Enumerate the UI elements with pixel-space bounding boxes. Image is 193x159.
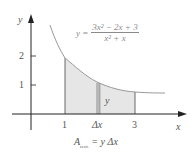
function-equation: y = 3x² − 2x + 3 x² + x bbox=[76, 22, 139, 43]
x-tick-3: 3 bbox=[132, 120, 137, 130]
strip-height-label: y bbox=[105, 96, 109, 106]
y-axis-arrow bbox=[28, 14, 34, 23]
equation-numerator: 3x² − 2x + 3 bbox=[91, 22, 138, 33]
delta-x-strip bbox=[96, 83, 100, 114]
area-formula: Arect. = y Δx bbox=[74, 136, 118, 149]
y-tick-1: 1 bbox=[19, 80, 24, 90]
equation-lhs: y = bbox=[76, 28, 88, 38]
y-axis-label: y bbox=[18, 15, 22, 25]
x-axis-label: x bbox=[176, 122, 180, 132]
equation-denominator: x² + x bbox=[104, 33, 125, 43]
x-tick-1: 1 bbox=[62, 120, 67, 130]
y-tick-2: 2 bbox=[19, 51, 24, 61]
x-tick-delta-x: Δx bbox=[92, 120, 102, 130]
x-axis-arrow bbox=[178, 111, 187, 117]
